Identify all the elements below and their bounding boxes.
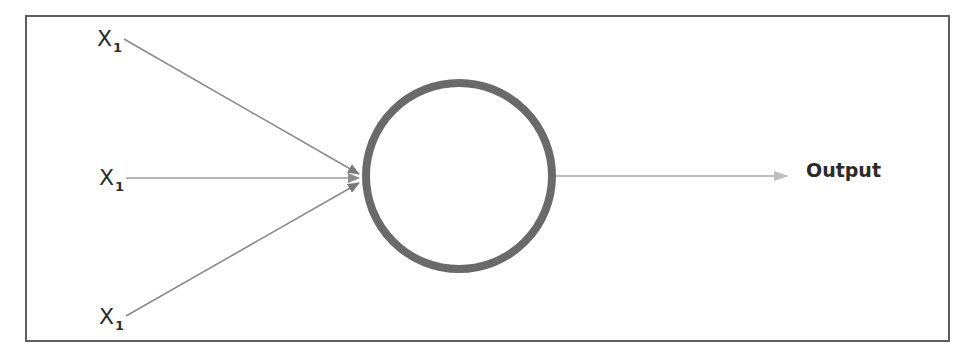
input-variable: X	[97, 26, 112, 51]
output-label: Output	[806, 161, 881, 180]
input-variable: X	[99, 165, 114, 190]
input-subscript: 1	[115, 318, 124, 333]
input-label-2: X1	[99, 167, 124, 189]
input-subscript: 1	[113, 40, 122, 55]
input-arrow-3	[126, 183, 359, 316]
input-subscript: 1	[115, 179, 124, 194]
neuron-node	[366, 83, 552, 269]
input-arrow-1	[124, 39, 359, 174]
input-label-3: X1	[99, 306, 124, 328]
input-label-1: X1	[97, 28, 122, 50]
input-variable: X	[99, 304, 114, 329]
